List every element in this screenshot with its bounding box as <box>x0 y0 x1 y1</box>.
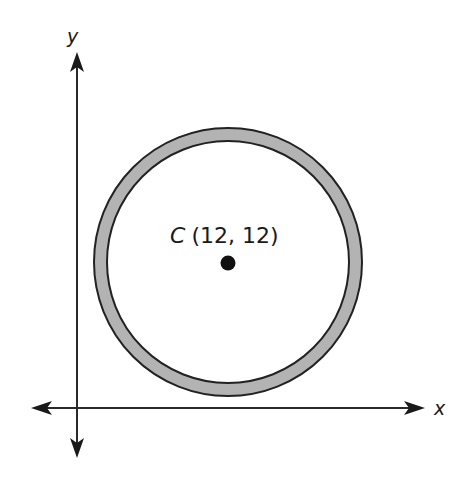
x-axis-label: x <box>433 397 446 419</box>
x-axis <box>31 401 425 415</box>
coordinate-plane-figure: y x C(12, 12) <box>0 0 470 477</box>
center-name: C <box>170 223 186 248</box>
y-axis-label: y <box>66 25 79 47</box>
center-point <box>221 256 236 271</box>
y-axis <box>70 52 84 458</box>
center-coords: (12, 12) <box>191 223 278 248</box>
